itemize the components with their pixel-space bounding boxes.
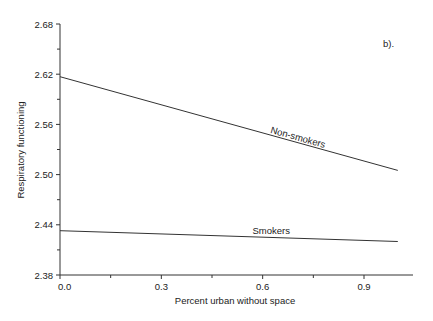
series-label-smokers: Smokers	[253, 225, 291, 236]
x-tick-label: 0.0	[58, 281, 71, 292]
series-line-smokers	[60, 231, 398, 242]
series-label-non-smokers: Non-smokers	[269, 124, 327, 150]
x-tick-label: 0.6	[256, 281, 269, 292]
y-tick-label: 2.68	[35, 19, 54, 30]
x-axis-label: Percent urban without space	[175, 295, 295, 306]
line-chart: 2.382.442.502.562.622.680.00.30.60.9 Non…	[0, 0, 433, 321]
panel-label: b).	[383, 38, 394, 49]
y-tick-label: 2.56	[35, 119, 54, 130]
y-tick-label: 2.44	[35, 219, 54, 230]
y-tick-label: 2.50	[35, 169, 54, 180]
x-tick-label: 0.9	[357, 281, 370, 292]
series-lines: Non-smokersSmokers	[60, 77, 398, 242]
axes: 2.382.442.502.562.622.680.00.30.60.9	[35, 19, 414, 293]
y-tick-label: 2.38	[35, 270, 54, 281]
series-line-non-smokers	[60, 77, 398, 171]
y-axis-label: Respiratory functioning	[15, 101, 26, 198]
x-tick-label: 0.3	[155, 281, 168, 292]
y-tick-label: 2.62	[35, 69, 54, 80]
